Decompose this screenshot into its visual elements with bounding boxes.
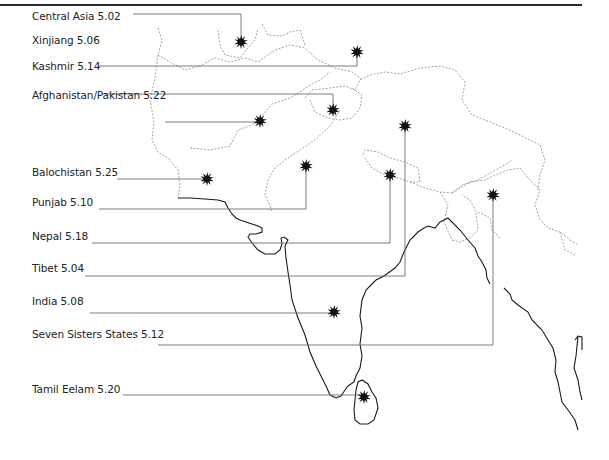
starburst-icon [383,168,397,182]
leader-line [158,195,493,345]
region-label: Balochistan 5.25 [32,166,118,178]
region-label: Tibet 5.04 [32,262,84,274]
region-label: Tamil Eelam 5.20 [32,383,120,395]
leader-line [85,126,405,276]
political-borders [150,24,578,255]
region-label: Seven Sisters States 5.12 [32,328,164,340]
region-label: Xinjiang 5.06 [32,34,100,46]
region-label: Nepal 5.18 [32,230,88,242]
starburst-icon [234,35,248,49]
starburst-icon [357,390,371,404]
map-figure: Central Asia 5.02Xinjiang 5.06Kashmir 5.… [0,0,609,460]
region-label: India 5.08 [32,295,84,307]
starburst-icon [486,188,500,202]
markers [200,35,500,404]
starburst-icon [299,159,313,173]
starburst-icon [327,305,341,319]
leader-line [98,52,357,66]
starburst-icon [326,103,340,117]
starburst-icon [398,119,412,133]
leader-line [133,14,241,42]
leader-line [99,166,306,209]
region-label: Central Asia 5.02 [32,10,121,22]
starburst-icon [350,45,364,59]
region-label: Kashmir 5.14 [32,60,100,72]
region-label: Afghanistan/Pakistan 5.22 [32,89,166,101]
starburst-icon [253,114,266,128]
region-label: Punjab 5.10 [32,196,93,208]
